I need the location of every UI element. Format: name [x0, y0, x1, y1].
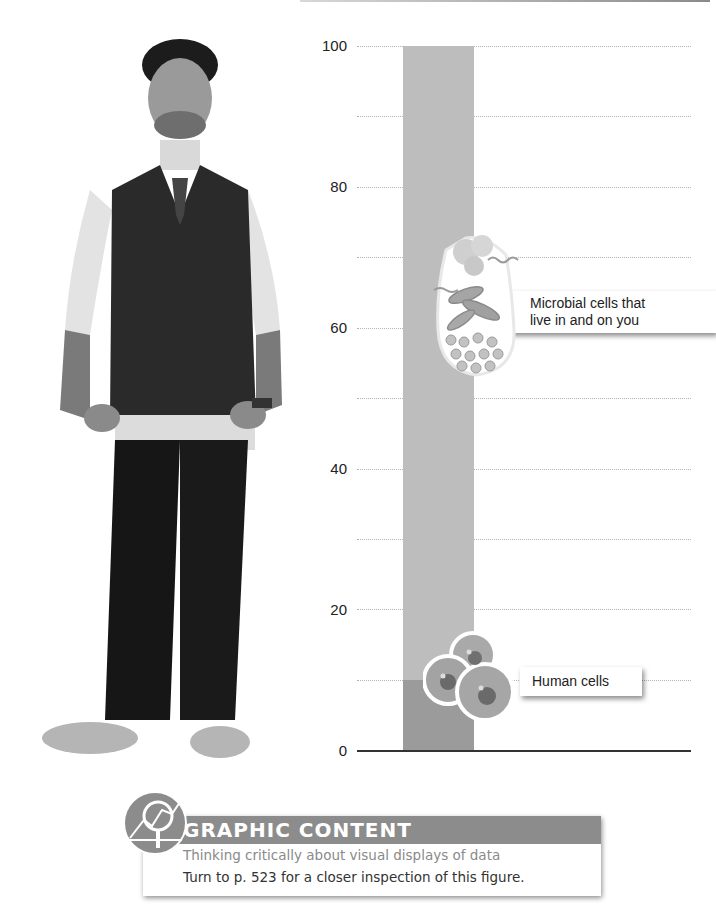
human-cells-icon [423, 630, 523, 725]
microbes-icon [426, 230, 526, 378]
y-tick-20: 20 [307, 602, 347, 618]
y-tick-80: 80 [307, 179, 347, 195]
microbial-callout-line1: Microbial cells that [530, 295, 710, 312]
y-tick-40: 40 [307, 461, 347, 477]
magnifier-chart-icon [122, 790, 188, 856]
cell-count-chart: 100 80 60 40 20 0 Microbial cells that l… [0, 0, 710, 800]
x-axis-baseline [357, 750, 691, 752]
microbial-callout-line2: live in and on you [530, 312, 710, 329]
human-cells-callout: Human cells [520, 667, 642, 696]
graphic-content-subtitle: Thinking critically about visual display… [183, 847, 500, 863]
human-callout-label: Human cells [532, 673, 636, 690]
graphic-content-title: GRAPHIC CONTENT [183, 818, 412, 842]
y-tick-100: 100 [307, 38, 347, 54]
graphic-content-box: GRAPHIC CONTENT Thinking critically abou… [143, 816, 601, 896]
microbial-cells-callout: Microbial cells that live in and on you [510, 291, 716, 333]
y-tick-60: 60 [307, 320, 347, 336]
y-tick-0: 0 [307, 743, 347, 759]
graphic-content-reference: Turn to p. 523 for a closer inspection o… [183, 869, 525, 885]
